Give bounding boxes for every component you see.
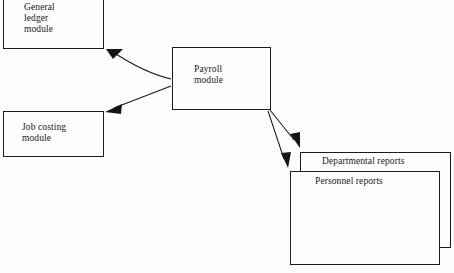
arrowhead-icon xyxy=(105,104,122,114)
arrowhead-icon xyxy=(106,49,123,59)
node-departmental-reports-label: Departmental reports xyxy=(322,156,404,167)
arrowhead-icon xyxy=(290,132,300,148)
edge-payroll-to-job-costing xyxy=(105,86,171,114)
edge-payroll-to-general-ledger xyxy=(106,49,171,79)
edge-payroll-to-personnel-reports xyxy=(268,111,291,168)
edge-payroll-to-departmental-reports xyxy=(270,110,300,148)
node-job-costing-label: Job costing module xyxy=(22,122,66,144)
node-payroll-label: Payroll module xyxy=(194,64,223,86)
node-personnel-reports-label: Personnel reports xyxy=(315,176,383,187)
arrowhead-icon xyxy=(281,152,291,168)
diagram-canvas: General ledger module Job costing module… xyxy=(0,0,454,273)
node-general-ledger-label: General ledger module xyxy=(24,2,55,36)
